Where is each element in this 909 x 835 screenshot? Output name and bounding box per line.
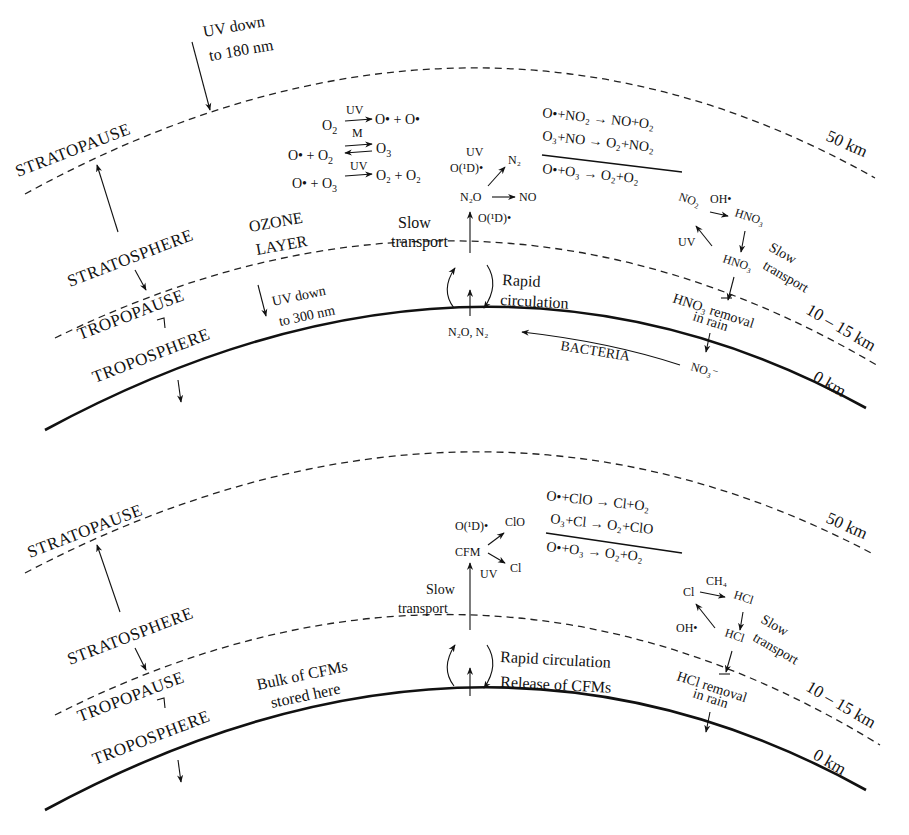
ground-line-2: [45, 687, 866, 810]
circulation-left-arrow: [447, 268, 455, 308]
sink-hno3-a: HNO₃: [733, 206, 766, 229]
altitude-50km: 50 km: [823, 126, 870, 161]
sink-oh: OH•: [710, 192, 732, 206]
nox-sink: NO₂ OH• HNO₃ UV HNO₃ Slow transport HNO₃…: [671, 190, 811, 352]
surface-source-label: N₂O, N₂: [448, 325, 488, 339]
sink-no2: NO₂: [677, 190, 702, 210]
rapid-label: Rapid: [502, 271, 541, 291]
r3-rhs: O₂ + O₂: [376, 168, 421, 183]
release-cfm-label: Release of CFMs: [500, 673, 612, 696]
r2-rhs: O3: [376, 141, 391, 159]
uv-180-arrow: [192, 42, 210, 110]
n2o-to-n2-arrow: [488, 167, 505, 186]
r1-condition: UV: [346, 103, 364, 117]
troposphere-down-arrow: [178, 380, 181, 402]
sink-hcl-a: HCl: [732, 588, 756, 608]
r1-lhs: O2: [322, 118, 337, 136]
nox-line-2: O₃+NO → O₂+NO₂: [542, 128, 655, 155]
stratosphere-up-arrow-2: [97, 545, 120, 612]
slow-transport-label-2a: Slow: [426, 582, 456, 597]
hno3-down-arrow: [741, 231, 745, 252]
tropopause-label-2: TROPOPAUSE: [75, 667, 187, 725]
slow-transport-label-2: transport: [391, 233, 448, 251]
stratosphere-down-arrow: [135, 270, 146, 290]
r3-lhs: O• + O3: [292, 176, 337, 194]
layer-label: LAYER: [255, 232, 309, 258]
r1-rhs: O• + O•: [375, 112, 420, 127]
stratopause-line: [25, 68, 875, 194]
nitrate-label: NO₃⁻: [689, 359, 720, 380]
cfm-to-cl-arrow: [488, 553, 505, 563]
altitude-10-15km: 10 – 15 km: [803, 300, 879, 355]
n2o-photolysis: UV O(¹D)• N₂ N₂O NO O(¹D)•: [450, 145, 537, 225]
rapid-circulation-label-2: Rapid circulation: [500, 648, 611, 672]
sink-hno3-b: HNO₃: [721, 252, 754, 275]
sink-cl: Cl: [683, 585, 695, 599]
sink-slow-2-2: transport: [751, 630, 802, 668]
circulation-right-arrow: [484, 265, 493, 308]
n2o-uv-label: UV: [466, 145, 484, 159]
slow-transport-label-1: Slow: [398, 214, 431, 231]
rain-down-arrow: [706, 333, 710, 352]
uv-300-label-line2: to 300 nm: [278, 302, 337, 329]
circulation-left-arrow-2: [447, 645, 455, 686]
stratosphere-label-2: STRATOSPHERE: [65, 603, 196, 668]
clox-net-reaction: O•+O₃ → O₂+O₂: [546, 539, 644, 564]
n2o-label: N₂O: [460, 190, 482, 204]
altitude-0km-2: 0 km: [810, 745, 849, 779]
cfm-o1d-label: O(¹D)•: [455, 519, 488, 533]
sink-uv: UV: [678, 235, 696, 249]
tropopause-label: TROPOPAUSE: [75, 285, 187, 343]
o1d-top-label: O(¹D)•: [450, 161, 483, 175]
nox-catalytic-cycle: O•+NO₂ → NO+O₂ O₃+NO → O₂+NO₂ O•+O₃ → O₂…: [542, 105, 682, 186]
cl-to-hcl-arrow: [700, 592, 725, 597]
troposphere-down-arrow-2: [178, 760, 181, 782]
cfm-uv-label: UV: [480, 567, 498, 581]
stratopause-line-2: [25, 452, 875, 573]
r1-arrow: [345, 119, 372, 121]
clox-line-2: O₃+Cl → O₂+ClO: [550, 511, 654, 537]
uv-300-arrow: [258, 285, 266, 316]
stratopause-label-2: STRATOPAUSE: [25, 500, 145, 561]
sink-hcl-b: HCl: [723, 626, 747, 646]
uv-180-label-line2: to 180 nm: [208, 36, 275, 64]
hcl-down-arrow: [740, 612, 743, 630]
r2-forward-arrow: [345, 144, 372, 146]
sink-oh-2: OH•: [676, 621, 698, 635]
circulation-right-arrow-2: [484, 645, 493, 688]
r3-condition: UV: [350, 159, 368, 173]
oh-to-cl-arrow: [696, 604, 715, 628]
r2-lhs: O• + O2: [288, 148, 333, 166]
atmosphere-chemistry-diagram: STRATOPAUSE STRATOSPHERE TROPOPAUSE TROP…: [0, 0, 909, 835]
cfm-photolysis: O(¹D)• ClO CFM Cl UV: [455, 515, 525, 581]
chapman-reactions: O2 UV O• + O• M O• + O2 O3 O• + O3 UV O₂…: [288, 103, 421, 194]
clox-catalytic-cycle: O•+ClO → Cl+O₂ O₃+Cl → O₂+ClO O•+O₃ → O₂…: [546, 488, 682, 564]
r2-condition: M: [352, 126, 363, 140]
stratosphere-up-arrow: [97, 165, 118, 232]
hno3-to-rain-arrow: [728, 277, 734, 300]
clox-line-1: O•+ClO → Cl+O₂: [546, 488, 650, 514]
no-label: NO: [519, 190, 537, 204]
troposphere-label: TROPOSPHERE: [90, 324, 213, 386]
tropopause-tick: [157, 318, 165, 328]
cfm-to-clo-arrow: [488, 533, 504, 545]
circulation-label: circulation: [500, 291, 569, 312]
r3-arrow: [345, 174, 372, 176]
o1d-bottom-label: O(¹D)•: [478, 211, 511, 225]
cl-label: Cl: [510, 561, 522, 575]
hcl-sink: Cl CH₄ HCl OH• HCl Slow transport HCl re…: [675, 574, 801, 732]
stratopause-label: STRATOPAUSE: [13, 119, 133, 180]
stratosphere-down-arrow-2: [135, 648, 146, 670]
altitude-10-15km-2: 10 – 15 km: [803, 677, 879, 732]
nox-line-1: O•+NO₂ → NO+O₂: [542, 105, 655, 132]
uv-180-label-line1: UV down: [202, 12, 266, 40]
r2-reverse-arrow: [345, 151, 372, 153]
stratosphere-label: STRATOSPHERE: [65, 225, 196, 290]
n2-label: N₂: [508, 153, 521, 167]
sink-ch4: CH₄: [706, 574, 727, 588]
uv-photolysis-arrow: [696, 226, 712, 246]
slow-transport-label-2b: transport: [398, 601, 448, 616]
bacteria-label: BACTERIA: [560, 338, 632, 364]
panel-nitrogen-cycle: STRATOPAUSE STRATOSPHERE TROPOPAUSE TROP…: [13, 12, 880, 430]
altitude-50km-2: 50 km: [823, 508, 870, 543]
